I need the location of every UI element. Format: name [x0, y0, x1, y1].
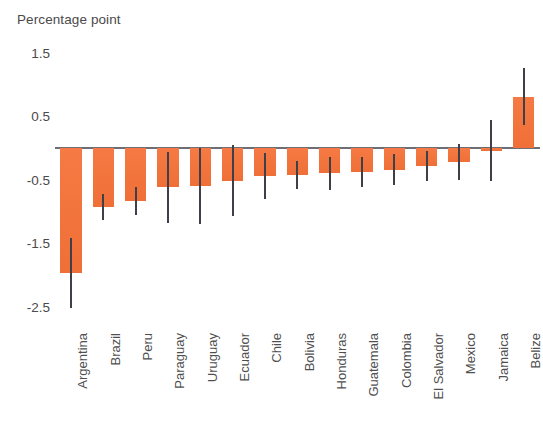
x-tick-label: Bolivia — [303, 333, 316, 371]
bar-group — [222, 0, 243, 330]
x-tick-label: Mexico — [464, 333, 477, 374]
x-tick-label: Chile — [270, 333, 283, 363]
x-tick-label: Guatemala — [367, 333, 380, 397]
error-bar — [264, 153, 266, 199]
error-bar — [426, 151, 428, 181]
error-bar — [329, 157, 331, 190]
error-bar — [393, 154, 395, 184]
x-tick-label: Uruguay — [206, 333, 219, 382]
error-bar — [361, 157, 363, 187]
x-tick-label: Brazil — [109, 333, 122, 366]
plot-area — [55, 0, 540, 330]
error-bar — [458, 144, 460, 180]
bar-group — [513, 0, 534, 330]
error-bar — [523, 68, 525, 125]
x-tick-label: Honduras — [335, 333, 348, 389]
error-bar — [296, 161, 298, 189]
x-tick-label: Peru — [141, 333, 154, 360]
bar-group — [125, 0, 146, 330]
x-axis-category-labels: ArgentinaBrazilPeruParaguayUruguayEcuado… — [55, 330, 540, 421]
bar-group — [319, 0, 340, 330]
error-bar — [490, 120, 492, 181]
error-bar — [70, 238, 72, 308]
bar-group — [481, 0, 502, 330]
x-tick-label: Colombia — [400, 333, 413, 388]
error-bar — [232, 145, 234, 216]
y-tick-label: -1.5 — [4, 236, 50, 251]
y-tick-label: -2.5 — [4, 299, 50, 314]
x-tick-label: Belize — [529, 333, 542, 368]
y-tick-label: 1.5 — [4, 45, 50, 60]
bar-group — [60, 0, 81, 330]
x-tick-label: Argentina — [76, 333, 89, 389]
bar-group — [157, 0, 178, 330]
x-tick-label: El Salvador — [432, 333, 445, 399]
y-tick-label: 0.5 — [4, 109, 50, 124]
bar-group — [448, 0, 469, 330]
bar-group — [287, 0, 308, 330]
x-tick-label: Ecuador — [238, 333, 251, 381]
bar-group — [384, 0, 405, 330]
bar-group — [190, 0, 211, 330]
x-tick-label: Jamaica — [497, 333, 510, 381]
x-tick-label: Paraguay — [173, 333, 186, 389]
bar-group — [254, 0, 275, 330]
bar-group — [93, 0, 114, 330]
bar-group — [416, 0, 437, 330]
y-tick-label: -0.5 — [4, 172, 50, 187]
error-bar — [167, 152, 169, 223]
error-bar — [199, 148, 201, 224]
error-bar — [102, 194, 104, 219]
bar-group — [351, 0, 372, 330]
y-axis-tick-labels: 1.50.5-0.5-1.5-2.5 — [0, 0, 50, 421]
error-bar — [135, 187, 137, 215]
